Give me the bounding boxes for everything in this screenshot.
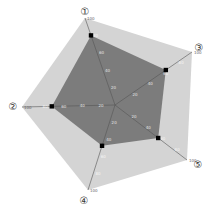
axis-label: ① [81,6,90,17]
axis-label: ④ [80,195,89,206]
tick-label: 60 [99,50,105,55]
tick-label: 20 [131,114,137,119]
tick-label: 40 [80,103,86,108]
data-point-marker [50,104,54,108]
tick-label: 60 [61,104,67,109]
tick-label: 80 [95,171,101,176]
tick-label: 20 [132,92,138,97]
data-point-marker [156,136,160,140]
axis-label: ③ [195,42,204,53]
tick-label-max: 100 [24,105,32,110]
radar-chart: 2040608010020406080100204060801002040608… [0,0,209,211]
tick-label: 40 [105,68,111,73]
tick-label: 40 [148,81,154,86]
tick-label: 80 [175,147,181,152]
tick-label: 40 [106,137,112,142]
tick-label: 40 [146,125,152,130]
tick-label: 20 [111,85,117,90]
data-point-marker [164,68,168,72]
tick-label: 60 [101,154,107,159]
tick-label-max: 100 [90,188,98,193]
tick-label: 80 [43,104,49,109]
axis-label: ② [9,101,18,112]
tick-label: 20 [112,120,118,125]
axis-label: ⑤ [194,159,203,170]
tick-label: 20 [98,103,104,108]
data-point-marker [100,144,104,148]
tick-label: 60 [160,136,166,141]
tick-label: 80 [93,33,99,38]
tick-label: 80 [179,60,185,65]
data-point-marker [89,33,93,37]
